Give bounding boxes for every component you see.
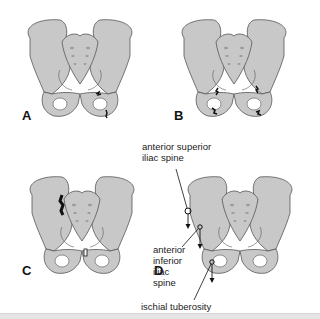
label-asis: anterior superior iliac spine [142, 141, 211, 163]
footer-strip [0, 313, 320, 319]
pelvis-illustration [160, 165, 320, 315]
label-asis-line2: iliac spine [142, 152, 211, 163]
label-aiis-line3: iliac [153, 266, 185, 277]
label-aiis-line2: inferior [153, 255, 185, 266]
panel-letter-b: B [174, 108, 183, 123]
label-ischial-tuberosity: ischial tuberosity [141, 301, 211, 312]
label-asis-line1: anterior superior [142, 141, 211, 152]
panel-d: D [160, 165, 320, 315]
panel-letter-a: A [22, 108, 31, 123]
pelvis-illustration [160, 0, 320, 150]
panel-letter-c: C [22, 263, 31, 278]
panel-b: B [160, 0, 320, 150]
pelvis-illustration [0, 0, 160, 150]
symphysis-widening [84, 249, 87, 256]
panel-c: C [0, 165, 160, 315]
label-aiis: anterior inferior iliac spine [153, 244, 185, 288]
label-aiis-line4: spine [153, 277, 185, 288]
pelvis-illustration [0, 165, 160, 315]
fracture-mark [106, 110, 107, 118]
label-aiis-line1: anterior [153, 244, 185, 255]
panel-a: A [0, 0, 160, 150]
